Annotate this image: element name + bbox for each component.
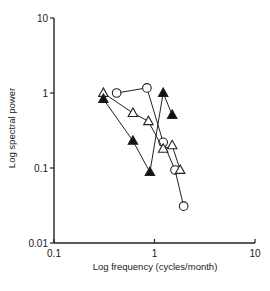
series-filled-triangles (99, 88, 177, 176)
y-tick-label: 0.01 (29, 238, 49, 249)
series-open-triangles (99, 88, 185, 174)
open-triangle-marker (144, 116, 154, 125)
x-axis-title: Log frequency (cycles/month) (93, 261, 218, 272)
y-tick-label: 10 (37, 13, 49, 24)
filled-triangle-marker (128, 136, 138, 145)
x-tick-label: 0.1 (47, 248, 61, 259)
open-circle-marker (179, 202, 188, 211)
filled-triangle-marker (158, 88, 168, 97)
open-triangle-marker (128, 108, 138, 117)
series-open-circles (112, 84, 188, 211)
y-tick-label: 0.1 (34, 163, 48, 174)
open-circle-marker (112, 89, 121, 98)
spectral-power-chart: 0.010.11100.1110 Log frequency (cycles/m… (0, 0, 270, 291)
data-series (99, 84, 188, 211)
axes: 0.010.11100.1110 (29, 13, 261, 260)
open-circle-marker (143, 84, 152, 93)
series-line (103, 93, 172, 172)
y-axis-title: Log spectral power (6, 88, 17, 168)
filled-triangle-marker (145, 167, 155, 176)
filled-triangle-marker (167, 110, 177, 119)
open-triangle-marker (167, 140, 177, 149)
x-tick-label: 10 (249, 248, 261, 259)
series-line (103, 93, 180, 170)
x-tick-label: 1 (152, 248, 158, 259)
y-tick-label: 1 (42, 88, 48, 99)
